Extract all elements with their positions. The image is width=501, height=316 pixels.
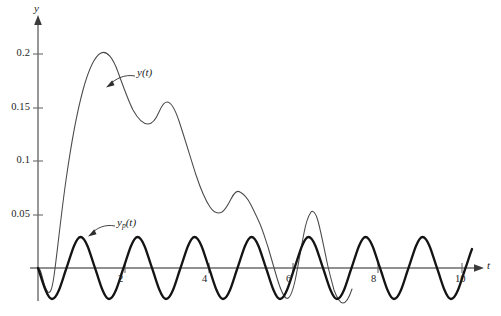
y-tick-label-0.2: 0.2 <box>0 47 30 58</box>
y-tick-label-0.15: 0.15 <box>0 101 30 112</box>
y-axis-arrowhead <box>34 15 42 25</box>
y-tick-label-0.05: 0.05 <box>0 208 30 219</box>
leader-line-yp <box>92 225 115 233</box>
x-tick-label-6: 6 <box>286 273 291 284</box>
leader-line-y <box>110 76 135 84</box>
annotation-leader-y <box>106 76 135 88</box>
annotation-leader-yp <box>88 225 115 236</box>
x-tick-label-4: 4 <box>202 273 207 284</box>
x-tick-label-8: 8 <box>371 273 376 284</box>
curve-label-y: y(t) <box>137 66 152 78</box>
curve-label-yp-tail: (t) <box>126 216 136 228</box>
x-axis-arrowhead <box>474 264 484 272</box>
curve-label-yp-subscript: p <box>122 221 126 230</box>
x-tick-label-2: 2 <box>118 273 123 284</box>
curve-y-of-t <box>38 52 352 303</box>
axis-group <box>30 15 484 301</box>
x-tick-label-10: 10 <box>455 273 466 284</box>
curve-label-yp: yp(t) <box>117 216 136 228</box>
y-tick-label-0.1: 0.1 <box>0 154 30 165</box>
chart-figure: y t 0.2 0.15 0.1 0.05 2 4 6 8 10 y(t) yp… <box>0 0 501 316</box>
plot-canvas <box>0 0 501 316</box>
y-axis-label: y <box>34 2 39 14</box>
x-axis-label: t <box>487 259 490 271</box>
